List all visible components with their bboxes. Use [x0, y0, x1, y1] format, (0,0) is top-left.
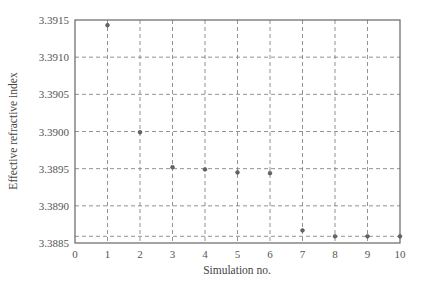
data-point-marker: [203, 168, 207, 172]
x-axis-label: Simulation no.: [203, 264, 271, 276]
x-tick-label: 8: [332, 248, 338, 260]
y-tick-label: 3.3900: [39, 126, 70, 138]
data-point-marker: [333, 234, 337, 238]
data-point-marker: [106, 23, 110, 27]
y-axis-tick-labels: 3.38853.38903.38953.39003.39053.39103.39…: [39, 14, 70, 249]
data-point-marker: [398, 234, 402, 238]
data-point-marker: [171, 165, 175, 169]
y-axis-label: Effective refractive index: [7, 72, 19, 190]
x-tick-label: 10: [395, 248, 407, 260]
data-point-marker: [366, 234, 370, 238]
scatter-chart: 012345678910 3.38853.38903.38953.39003.3…: [0, 0, 425, 284]
data-point-marker: [268, 171, 272, 175]
x-tick-label: 2: [137, 248, 143, 260]
x-tick-label: 5: [235, 248, 241, 260]
y-tick-label: 3.3885: [39, 237, 70, 249]
x-tick-label: 3: [170, 248, 176, 260]
y-tick-label: 3.3895: [39, 163, 70, 175]
y-tick-label: 3.3915: [39, 14, 70, 26]
x-axis-tick-labels: 012345678910: [72, 248, 406, 260]
x-tick-label: 7: [300, 248, 306, 260]
x-tick-label: 6: [267, 248, 273, 260]
x-tick-label: 0: [72, 248, 78, 260]
x-tick-label: 1: [105, 248, 111, 260]
x-tick-label: 4: [202, 248, 208, 260]
y-tick-label: 3.3905: [39, 88, 70, 100]
y-tick-label: 3.3890: [39, 200, 70, 212]
data-point-marker: [301, 228, 305, 232]
y-tick-label: 3.3910: [39, 51, 70, 63]
data-point-marker: [138, 130, 142, 134]
x-tick-label: 9: [365, 248, 371, 260]
data-point-marker: [236, 170, 240, 174]
grid-lines: [75, 20, 400, 243]
